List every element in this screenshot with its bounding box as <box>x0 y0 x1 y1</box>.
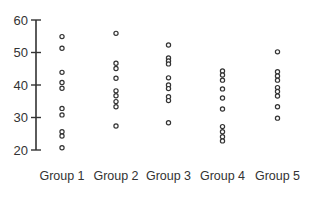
y-tick-label: 40 <box>14 78 28 93</box>
data-point <box>60 130 64 134</box>
data-point <box>60 70 64 74</box>
data-point <box>275 78 279 82</box>
y-tick-label: 30 <box>14 110 28 125</box>
series-group-5 <box>275 50 279 121</box>
data-point <box>60 80 64 84</box>
data-point <box>220 135 224 139</box>
chart-canvas: 2030405060 Group 1Group 2Group 3Group 4G… <box>0 0 315 197</box>
data-point <box>166 99 170 103</box>
x-category-label: Group 5 <box>255 169 300 183</box>
data-point <box>220 130 224 134</box>
data-point <box>166 43 170 47</box>
data-point <box>220 73 224 77</box>
data-point <box>114 124 118 128</box>
data-point <box>166 62 170 66</box>
data-point <box>220 96 224 100</box>
series-group-3 <box>166 43 170 125</box>
y-tick-label: 60 <box>14 13 28 28</box>
data-point <box>114 31 118 35</box>
data-point <box>114 99 118 103</box>
data-point <box>275 116 279 120</box>
data-point <box>60 106 64 110</box>
data-point <box>275 89 279 93</box>
x-category-label: Group 1 <box>39 169 84 183</box>
data-point <box>114 76 118 80</box>
y-tick-label: 20 <box>14 143 28 158</box>
data-point <box>60 46 64 50</box>
data-point <box>114 61 118 65</box>
data-points <box>60 31 280 150</box>
data-point <box>275 105 279 109</box>
data-point <box>166 76 170 80</box>
data-point <box>114 105 118 109</box>
data-point <box>275 50 279 54</box>
data-point <box>60 34 64 38</box>
y-tick-label: 50 <box>14 45 28 60</box>
data-point <box>166 86 170 90</box>
data-point <box>220 78 224 82</box>
data-point <box>114 94 118 98</box>
x-category-label: Group 3 <box>146 169 191 183</box>
series-group-1 <box>60 34 64 149</box>
data-point <box>220 87 224 91</box>
data-point <box>114 89 118 93</box>
data-point <box>275 70 279 74</box>
y-axis: 2030405060 <box>14 13 41 158</box>
data-point <box>220 139 224 143</box>
data-point <box>60 134 64 138</box>
x-category-label: Group 4 <box>200 169 245 183</box>
data-point <box>220 107 224 111</box>
strip-chart: 2030405060 Group 1Group 2Group 3Group 4G… <box>0 0 315 197</box>
x-category-labels: Group 1Group 2Group 3Group 4Group 5 <box>39 169 300 183</box>
series-group-4 <box>220 69 224 143</box>
data-point <box>60 86 64 90</box>
data-point <box>220 125 224 129</box>
data-point <box>60 113 64 117</box>
data-point <box>275 94 279 98</box>
data-point <box>114 66 118 70</box>
data-point <box>60 146 64 150</box>
data-point <box>275 74 279 78</box>
data-point <box>166 121 170 125</box>
x-category-label: Group 2 <box>93 169 138 183</box>
series-group-2 <box>114 31 118 128</box>
